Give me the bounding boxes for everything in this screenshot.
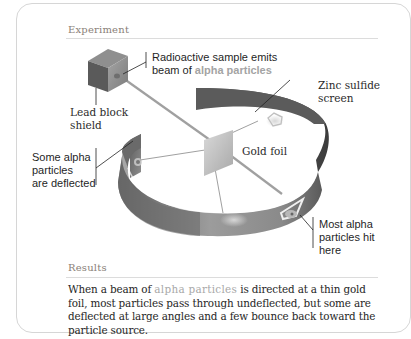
hit-label: Most alpha particles hit here bbox=[319, 218, 375, 257]
gold-foil-label: Gold foil bbox=[242, 145, 287, 158]
results-text: When a beam of alpha particles is direct… bbox=[68, 283, 380, 337]
lead-block-icon bbox=[88, 49, 128, 92]
deflected-label: Some alpha particles are deflected bbox=[32, 151, 96, 190]
gold-foil-icon bbox=[204, 130, 233, 176]
results-heading: Results bbox=[68, 262, 107, 273]
lead-block-label: Lead block shield bbox=[70, 106, 128, 132]
zinc-sulfide-label: Zinc sulfide screen bbox=[318, 79, 380, 105]
source-label: Radioactive sample emits beam of alpha p… bbox=[152, 51, 277, 77]
results-divider bbox=[66, 277, 378, 278]
